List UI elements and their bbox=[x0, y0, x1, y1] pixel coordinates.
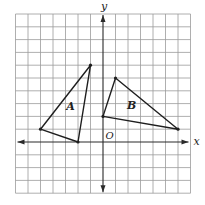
origin-label: O bbox=[106, 130, 114, 141]
triangle-label: A bbox=[65, 100, 75, 113]
coordinate-grid: AB x y O bbox=[0, 0, 205, 205]
vertex-point bbox=[89, 64, 92, 67]
coordinate-plane-figure: AB x y O bbox=[0, 0, 205, 205]
x-axis-label: x bbox=[194, 135, 201, 148]
vertex-point bbox=[39, 128, 42, 131]
vertex-point bbox=[114, 76, 117, 79]
y-axis-label: y bbox=[100, 0, 108, 13]
triangle-label: B bbox=[126, 99, 136, 112]
vertex-point bbox=[76, 140, 79, 143]
vertex-point bbox=[176, 128, 179, 131]
x-axis-left-arrow-icon bbox=[18, 140, 25, 145]
vertex-point bbox=[101, 115, 104, 118]
y-axis-down-arrow-icon bbox=[101, 185, 106, 192]
y-axis-up-arrow-icon bbox=[101, 15, 106, 22]
x-axis-right-arrow-icon bbox=[182, 140, 189, 145]
